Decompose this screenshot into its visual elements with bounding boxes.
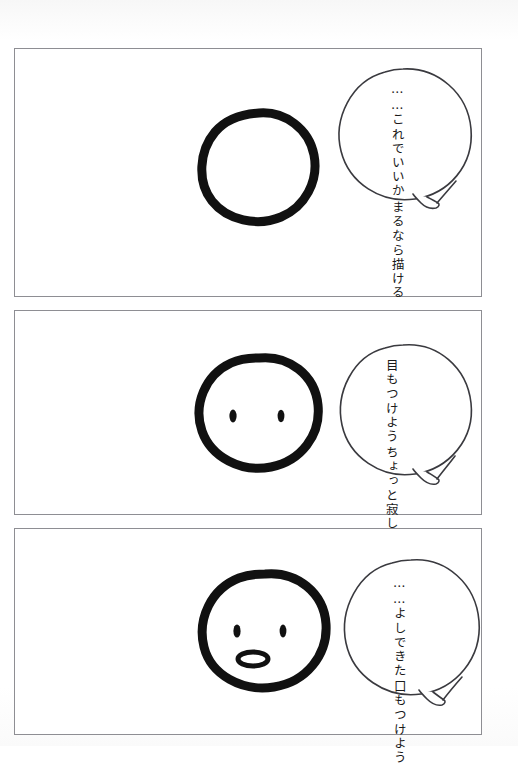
speech-bubble-outline-path bbox=[345, 560, 480, 695]
bubble-line: ……よしできた bbox=[391, 575, 406, 678]
speech-bubble-3: 口もつけよう ……よしできた bbox=[333, 551, 493, 716]
face-with-eyes-and-mouth bbox=[195, 567, 335, 697]
speech-bubble-outline-path bbox=[339, 69, 471, 200]
speech-bubble-1: まるなら描ける ……これでいいか bbox=[325, 61, 485, 221]
face-outline-path bbox=[199, 358, 318, 469]
open-mouth bbox=[238, 652, 268, 666]
right-eye bbox=[278, 410, 285, 422]
speech-bubble-text-3: 口もつけよう ……よしできた bbox=[391, 575, 406, 766]
left-eye bbox=[229, 410, 236, 423]
face-with-eyes bbox=[191, 351, 326, 476]
face-outline-path bbox=[202, 113, 315, 222]
speech-bubble-outline-path bbox=[340, 345, 471, 475]
bubble-line: 目もつけよう bbox=[383, 359, 398, 444]
bubble-line: 口もつけよう bbox=[391, 680, 406, 765]
right-eye bbox=[280, 625, 287, 638]
speech-bubble-2: ちょっと寂しいな 目もつけよう bbox=[327, 337, 487, 497]
face-outline-path bbox=[202, 574, 326, 688]
bubble-line: ……これでいいか bbox=[389, 81, 404, 199]
bubble-line: まるなら描ける bbox=[389, 201, 404, 300]
comic-panel-1: まるなら描ける ……これでいいか bbox=[14, 48, 482, 297]
blank-circle-face bbox=[193, 107, 323, 227]
comic-panel-2: ちょっと寂しいな 目もつけよう bbox=[14, 310, 482, 515]
comic-panel-3: 口もつけよう ……よしできた bbox=[14, 528, 482, 735]
speech-bubble-text-1: まるなら描ける ……これでいいか bbox=[389, 81, 404, 300]
left-eye bbox=[233, 624, 240, 637]
speech-bubble-tail-path bbox=[419, 690, 445, 705]
